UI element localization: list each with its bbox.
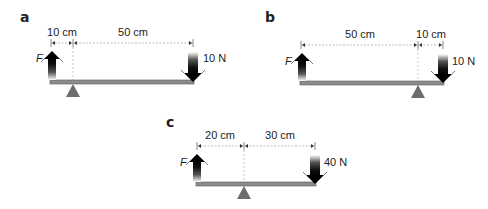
panel-c: c 20 cm 30 cm F 40 N [166,114,347,199]
lever-diagrams: a 10 cm 50 cm F 1 [0,0,488,209]
right-distance: 50 cm [118,26,148,38]
fulcrum-triangle [237,186,251,199]
left-distance: 20 cm [205,129,235,141]
load-label: 10 N [452,55,475,67]
panel-label: b [265,9,275,25]
effort-arrow-up-icon [291,53,313,81]
fulcrum-triangle [66,84,80,97]
dimension-lines [301,41,443,81]
effort-arrow-up-icon [186,154,208,182]
fulcrum-triangle [411,85,425,98]
panel-label: a [20,9,29,25]
effort-label: F [180,156,188,168]
dimension-lines [197,142,315,182]
effort-label: F [285,55,293,67]
left-distance: 10 cm [47,26,77,38]
lever-beam [300,81,444,85]
effort-arrow-up-icon [41,51,63,80]
panel-b: b 50 cm 10 cm F 10 N [265,9,475,98]
lever-beam [50,80,194,84]
right-distance: 10 cm [416,28,446,40]
load-arrow-down-icon [181,52,205,82]
panel-label: c [166,114,174,130]
panel-a: a 10 cm 50 cm F 1 [20,9,226,97]
load-label: 10 N [203,52,226,64]
left-distance: 50 cm [345,28,375,40]
load-label: 40 N [324,156,347,168]
dimension-lines [51,39,193,80]
lever-beam [196,182,316,186]
right-distance: 30 cm [265,129,295,141]
effort-label: F [36,52,44,64]
